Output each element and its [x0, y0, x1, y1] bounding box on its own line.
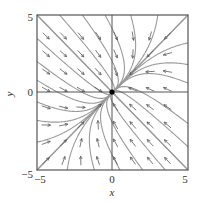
- field-arrow-icon: [164, 87, 172, 91]
- solution-curve: [37, 38, 112, 94]
- field-arrow-icon: [79, 156, 82, 165]
- x-tick-5: 5: [182, 173, 188, 185]
- field-arrow-icon: [147, 51, 153, 57]
- field-arrow-icon: [77, 69, 84, 75]
- y-tick-neg5: −5: [21, 168, 33, 180]
- field-arrow-icon: [97, 121, 100, 130]
- field-arrow-icon: [59, 87, 67, 91]
- field-arrow-icon: [94, 87, 102, 92]
- y-tick-5: 5: [28, 11, 34, 23]
- x-axis-label: x: [109, 186, 115, 198]
- field-arrow-icon: [59, 123, 68, 126]
- field-arrow-icon: [43, 33, 50, 39]
- field-arrow-icon: [164, 122, 171, 128]
- solution-curve: [113, 91, 188, 147]
- field-arrow-icon: [164, 33, 170, 39]
- field-arrow-icon: [62, 156, 65, 164]
- field-arrow-icon: [147, 140, 153, 147]
- field-arrow-icon: [113, 139, 117, 147]
- field-arrow-icon: [60, 69, 67, 74]
- y-axis-label: y: [3, 91, 15, 97]
- field-arrow-icon: [42, 141, 50, 144]
- field-arrow-icon: [114, 32, 118, 40]
- field-arrow-icon: [130, 139, 135, 146]
- field-arrow-icon: [130, 122, 136, 129]
- field-arrow-icon: [96, 139, 99, 148]
- field-arrow-icon: [113, 103, 118, 111]
- field-arrow-icon: [130, 104, 137, 110]
- field-arrow-icon: [80, 138, 83, 147]
- field-arrow-icon: [131, 49, 134, 58]
- field-arrow-icon: [96, 156, 99, 165]
- equilibrium-point: [109, 89, 114, 94]
- field-arrow-icon: [148, 32, 151, 41]
- field-arrow-icon: [165, 157, 171, 164]
- field-arrow-icon: [95, 50, 100, 57]
- field-arrow-icon: [43, 51, 50, 57]
- field-arrow-icon: [60, 33, 66, 39]
- field-arrow-icon: [146, 70, 155, 73]
- field-arrow-icon: [147, 105, 154, 110]
- x-tick-neg5: −5: [34, 173, 46, 185]
- field-arrow-icon: [163, 53, 172, 56]
- x-tick-0: 0: [109, 173, 115, 185]
- field-arrow-icon: [42, 124, 51, 127]
- field-arrow-icon: [114, 50, 118, 58]
- solution-curve: [60, 15, 115, 92]
- field-arrow-icon: [60, 51, 67, 57]
- field-arrow-icon: [147, 157, 153, 164]
- field-arrow-icon: [60, 140, 66, 146]
- field-arrow-icon: [95, 68, 101, 75]
- field-arrow-icon: [164, 140, 170, 146]
- field-arrow-icon: [113, 157, 117, 165]
- field-arrow-icon: [76, 106, 85, 109]
- field-arrow-icon: [43, 158, 49, 164]
- y-tick-0: 0: [28, 86, 34, 98]
- field-arrow-icon: [146, 87, 154, 91]
- field-arrow-icon: [59, 106, 68, 109]
- solution-curve: [111, 93, 166, 170]
- phase-plane-plot: −5 0 5 −5 0 5 x y: [0, 0, 199, 205]
- field-arrow-icon: [78, 50, 84, 57]
- field-arrow-icon: [42, 87, 50, 91]
- field-arrow-icon: [147, 122, 154, 128]
- field-arrow-icon: [163, 70, 172, 73]
